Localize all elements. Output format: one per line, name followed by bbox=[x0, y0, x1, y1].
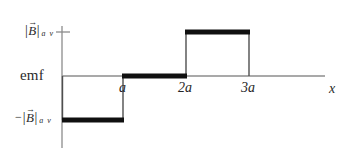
y-tick-label-b-min: −|→B|a v bbox=[15, 111, 52, 125]
x-tick-label-a: a bbox=[119, 81, 126, 95]
vector-arrow-icon-neg: → bbox=[26, 105, 35, 114]
subscript-av-neg: a v bbox=[37, 116, 52, 125]
y-tick-label-b-max: |→B|a v bbox=[25, 24, 54, 38]
vector-arrow-icon: → bbox=[28, 18, 37, 27]
y-axis-label-emf: emf bbox=[20, 68, 44, 83]
subscript-av: a v bbox=[40, 29, 55, 38]
b-symbol-neg: →B bbox=[26, 110, 35, 125]
x-axis-label: x bbox=[329, 82, 335, 96]
vector-magnitude-group: |→B| bbox=[25, 24, 40, 38]
vector-magnitude-group-neg: |→B| bbox=[23, 111, 38, 125]
b-symbol: →B bbox=[28, 23, 37, 38]
x-tick-label-3a: 3a bbox=[241, 81, 255, 95]
minus-sign: − bbox=[15, 110, 23, 124]
emf-step-plot-figure: emf |→B|a v −|→B|a v a 2a 3a x bbox=[0, 0, 349, 159]
x-tick-label-2a: 2a bbox=[178, 81, 192, 95]
